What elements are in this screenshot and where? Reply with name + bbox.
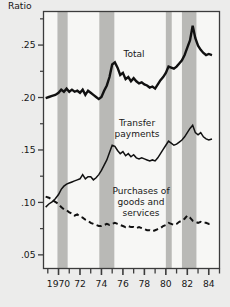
y-tick-label-4: .05 [21, 249, 36, 260]
series-annotation-purchases-line3: services [123, 208, 160, 218]
series-annotation-transfer-line1: Transfer [118, 118, 155, 128]
recession-band-2 [166, 12, 172, 269]
x-tick-label-6: 82 [181, 278, 193, 289]
x-tick-label-0: 1970 [47, 278, 71, 289]
recession-band-0 [57, 12, 67, 269]
x-tick-label-5: 80 [160, 278, 172, 289]
series-annotation-purchases-line1: Purchases of [112, 186, 170, 196]
recession-band-1 [99, 12, 114, 269]
y-axis-title: Ratio [8, 0, 32, 11]
ratio-line-chart: .25.20.15.10.05Ratio197072747678808284 T… [0, 0, 230, 307]
x-tick-label-2: 74 [96, 278, 108, 289]
chart-figure: .25.20.15.10.05Ratio197072747678808284 T… [0, 0, 230, 307]
x-tick-label-4: 78 [139, 278, 151, 289]
series-annotation-total: Total [122, 49, 144, 59]
recession-band-3 [182, 12, 196, 269]
series-annotation-purchases-line2: goods and [118, 197, 165, 207]
x-tick-label-7: 84 [203, 278, 215, 289]
y-tick-label-0: .25 [21, 39, 36, 50]
x-tick-label-1: 72 [74, 278, 86, 289]
y-tick-label-2: .15 [21, 144, 36, 155]
series-annotation-transfer-line2: payments [115, 129, 160, 139]
x-tick-label-3: 76 [117, 278, 129, 289]
y-tick-label-3: .10 [21, 197, 36, 208]
y-tick-label-1: .20 [21, 92, 36, 103]
